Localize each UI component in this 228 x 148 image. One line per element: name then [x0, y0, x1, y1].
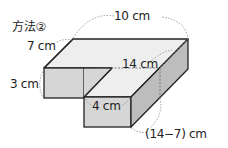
label-inner-14cm: 14 cm [122, 58, 158, 70]
method-title: 方法② [12, 21, 46, 33]
left-front-face-rect [44, 68, 84, 98]
label-length-10cm: 10 cm [114, 10, 150, 22]
label-arm-4cm: 4 cm [92, 100, 121, 112]
label-difference: (14−7) cm [145, 128, 207, 140]
label-height-3cm: 3 cm [10, 78, 39, 90]
label-depth-7cm: 7 cm [27, 40, 56, 52]
